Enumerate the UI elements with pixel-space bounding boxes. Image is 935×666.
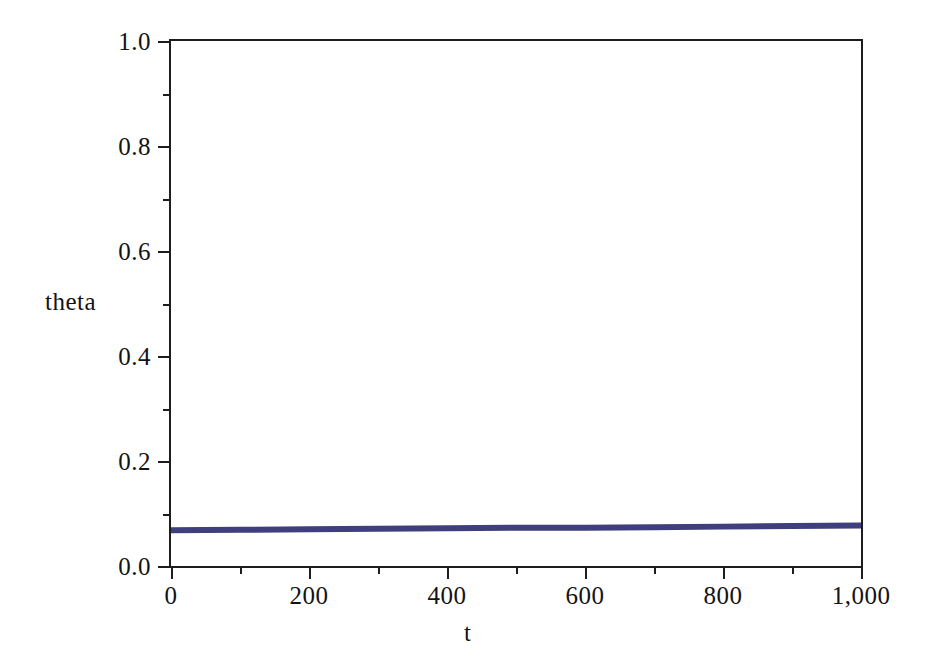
y-tick-1 [158, 41, 171, 43]
y-tick-0.9 [163, 94, 171, 96]
x-tick-label-1000: 1,000 [832, 583, 891, 608]
x-tick-100 [240, 566, 242, 574]
x-tick-300 [378, 566, 380, 574]
series-line-theta [171, 41, 861, 566]
y-tick-0 [158, 566, 171, 568]
x-tick-900 [792, 566, 794, 574]
chart-figure: theta 0.00.20.40.60.81.002004006008001,0… [0, 0, 935, 666]
y-tick-label-1: 1.0 [118, 29, 151, 54]
x-tick-1000 [861, 566, 863, 579]
x-tick-label-200: 200 [290, 583, 329, 608]
y-tick-0.1 [163, 514, 171, 516]
y-tick-label-0.4: 0.4 [118, 344, 151, 369]
x-tick-400 [447, 566, 449, 579]
x-tick-200 [309, 566, 311, 579]
y-tick-label-0.2: 0.2 [118, 449, 151, 474]
y-tick-label-0: 0.0 [118, 554, 151, 579]
x-tick-label-600: 600 [566, 583, 605, 608]
y-axis-title: theta [45, 289, 96, 314]
x-tick-label-0: 0 [165, 583, 178, 608]
x-tick-label-400: 400 [428, 583, 467, 608]
x-tick-label-800: 800 [704, 583, 743, 608]
x-tick-600 [585, 566, 587, 579]
y-tick-0.5 [163, 304, 171, 306]
y-tick-0.3 [163, 409, 171, 411]
x-tick-0 [171, 566, 173, 579]
y-tick-label-0.8: 0.8 [118, 134, 151, 159]
x-axis-title: t [0, 620, 935, 645]
x-tick-500 [516, 566, 518, 574]
y-tick-0.4 [158, 356, 171, 358]
y-tick-0.6 [158, 251, 171, 253]
y-tick-0.7 [163, 199, 171, 201]
y-tick-0.8 [158, 146, 171, 148]
y-tick-0.2 [158, 461, 171, 463]
plot-frame: 0.00.20.40.60.81.002004006008001,000 [169, 39, 863, 568]
x-tick-800 [723, 566, 725, 579]
x-tick-700 [654, 566, 656, 574]
y-tick-label-0.6: 0.6 [118, 239, 151, 264]
plot-area [171, 41, 861, 566]
